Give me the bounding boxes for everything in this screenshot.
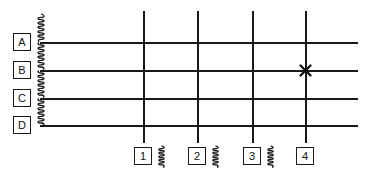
grid-bubble-a-label: A (18, 37, 25, 48)
gridline-d-stub (40, 125, 46, 127)
grid-bubble-c[interactable]: C (13, 89, 31, 107)
gridline-d (42, 125, 358, 127)
gridline-3 (252, 11, 254, 143)
grid-bubble-3-label: 3 (249, 151, 255, 162)
grid-bubble-b[interactable]: B (13, 61, 31, 79)
gridline-2 (197, 11, 199, 143)
gridline-1 (143, 11, 145, 143)
coil-break-c-to-d-icon (34, 98, 48, 126)
coil-break-a-to-b-icon (34, 42, 48, 71)
coil-break-1-to-2-icon (155, 145, 168, 170)
grid-bubble-b-label: B (18, 65, 25, 76)
coil-break-b-to-c-icon (34, 70, 48, 99)
gridline-c-stub (40, 98, 46, 100)
grid-bubble-c-label: C (18, 93, 26, 104)
coil-break-2-to-3-icon (209, 145, 222, 170)
coil-break-above-a-icon (34, 13, 48, 43)
grid-bubble-d-label: D (18, 120, 26, 131)
grid-bubble-1-label: 1 (140, 151, 146, 162)
gridline-c (42, 98, 358, 100)
grid-bubble-4-label: 4 (302, 151, 308, 162)
grid-bubble-3[interactable]: 3 (243, 147, 261, 165)
gridline-a-stub (40, 42, 46, 44)
coil-break-3-to-4-icon (264, 145, 277, 170)
grid-bubble-2-label: 2 (194, 151, 200, 162)
grid-bubble-1[interactable]: 1 (134, 147, 152, 165)
gridline-a (42, 42, 358, 44)
location-x-marker-icon[interactable] (298, 63, 313, 78)
grid-plan-canvas: A B C D 1 2 3 4 (0, 0, 371, 175)
grid-bubble-2[interactable]: 2 (188, 147, 206, 165)
grid-bubble-a[interactable]: A (13, 33, 31, 51)
grid-bubble-4[interactable]: 4 (296, 147, 314, 165)
gridline-b-stub (40, 70, 46, 72)
grid-bubble-d[interactable]: D (13, 116, 31, 134)
